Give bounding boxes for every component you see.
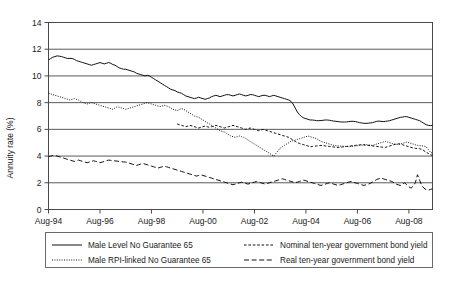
y-axis-title: Annuity rate (%) xyxy=(5,117,15,178)
series-line-0 xyxy=(49,56,433,126)
plot-frame xyxy=(49,23,433,210)
y-axis-ticks: 02468101214 xyxy=(32,18,48,215)
y-tick-label: 0 xyxy=(37,205,42,215)
legend-label: Real ten-year government bond yield xyxy=(280,256,415,265)
y-tick-label: 4 xyxy=(37,151,42,161)
x-tick-label: Aug-00 xyxy=(189,216,217,226)
chart-svg: Annuity rate (%) 02468101214 Aug-94Aug-9… xyxy=(0,0,449,284)
x-tick-label: Aug-96 xyxy=(86,216,114,226)
series-line-3 xyxy=(49,155,433,190)
x-tick-label: Aug-04 xyxy=(292,216,320,226)
gridlines xyxy=(49,23,433,183)
x-tick-label: Aug-94 xyxy=(35,216,63,226)
x-tick-label: Aug-02 xyxy=(241,216,269,226)
x-axis-ticks: Aug-94Aug-96Aug-98Aug-00Aug-02Aug-04Aug-… xyxy=(35,210,423,226)
series-line-2 xyxy=(177,124,432,155)
legend-label: Male RPI-linked No Guarantee 65 xyxy=(88,256,211,265)
x-tick-label: Aug-98 xyxy=(138,216,166,226)
x-tick-label: Aug-08 xyxy=(395,216,423,226)
legend-label: Male Level No Guarantee 65 xyxy=(88,241,193,250)
y-tick-label: 14 xyxy=(32,18,42,28)
x-tick-label: Aug-06 xyxy=(344,216,372,226)
y-tick-label: 10 xyxy=(32,71,42,81)
annuity-rate-chart: Annuity rate (%) 02468101214 Aug-94Aug-9… xyxy=(0,0,449,284)
y-tick-label: 6 xyxy=(37,124,42,134)
y-tick-label: 12 xyxy=(32,44,42,54)
legend-label: Nominal ten-year government bond yield xyxy=(280,241,428,250)
legend-entries: Male Level No Guarantee 65Nominal ten-ye… xyxy=(52,241,428,265)
y-tick-label: 8 xyxy=(37,98,42,108)
y-tick-label: 2 xyxy=(37,178,42,188)
